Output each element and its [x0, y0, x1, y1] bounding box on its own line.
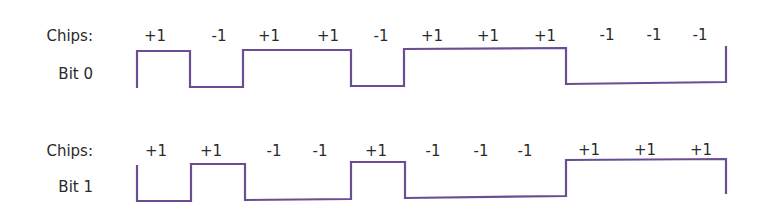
- waveforms: [0, 0, 774, 216]
- bit1-waveform: [137, 159, 726, 201]
- bit0-waveform: [137, 46, 726, 88]
